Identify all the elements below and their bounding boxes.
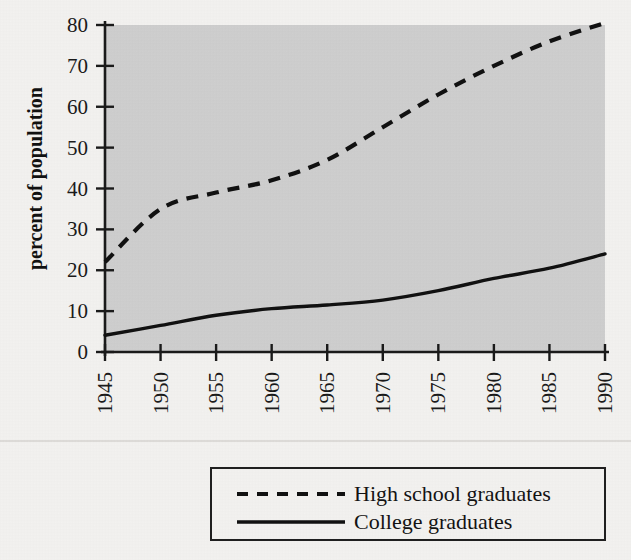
line-chart: 01020304050607080 1945195019551960196519… (0, 0, 631, 560)
legend-label-high-school-graduates: High school graduates (354, 481, 551, 506)
y-tick-label: 10 (67, 299, 88, 323)
x-tick-label: 1975 (426, 372, 450, 414)
y-tick-label: 40 (67, 177, 88, 201)
x-tick-label: 1970 (371, 372, 395, 414)
x-tick-label: 1985 (537, 372, 561, 414)
y-tick-labels: 01020304050607080 (67, 13, 88, 364)
x-tick-labels: 1945195019551960196519701975198019851990 (93, 372, 617, 414)
x-tick-label: 1960 (260, 372, 284, 414)
y-tick-label: 80 (67, 13, 88, 37)
x-tick-label: 1950 (149, 372, 173, 414)
x-tick-label: 1965 (315, 372, 339, 414)
y-tick-label: 20 (67, 258, 88, 282)
x-tick-label: 1955 (204, 372, 228, 414)
y-tick-label: 50 (67, 136, 88, 160)
x-tick-label: 1945 (93, 372, 117, 414)
legend-label-college-graduates: College graduates (354, 509, 512, 534)
y-axis-label: percent of population (24, 87, 47, 270)
y-tick-label: 70 (67, 54, 88, 78)
x-tick-label: 1980 (482, 372, 506, 414)
y-tick-label: 60 (67, 95, 88, 119)
x-tick-label: 1990 (593, 372, 617, 414)
y-tick-label: 30 (67, 217, 88, 241)
y-tick-label: 0 (78, 340, 89, 364)
chart-page: 01020304050607080 1945195019551960196519… (0, 0, 631, 560)
